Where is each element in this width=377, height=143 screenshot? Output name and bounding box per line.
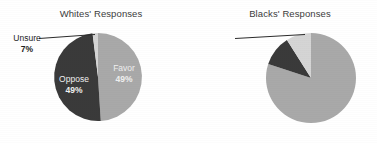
- pie-label-whites-unsure: Unsure 7%: [4, 33, 50, 54]
- pie-label-whites-favor-name: Favor: [104, 63, 144, 74]
- pie-label-whites-unsure-name: Unsure: [4, 33, 50, 44]
- pie-blacks-svg: [187, 0, 377, 143]
- pie-label-whites-favor: Favor 49%: [104, 63, 144, 84]
- pie-chart-figure: Whites' Responses Favor 49% Oppose 49% U…: [0, 0, 377, 143]
- pie-label-whites-favor-pct: 49%: [104, 74, 144, 85]
- chart-whites-responses: Whites' Responses Favor 49% Oppose 49% U…: [0, 0, 190, 143]
- pie-whites-svg: [0, 0, 190, 143]
- pie-label-whites-unsure-pct: 7%: [4, 44, 50, 55]
- chart-blacks-responses: Blacks' Responses Favor 70% Oppose 21% U…: [187, 0, 377, 143]
- pie-label-whites-oppose-pct: 49%: [50, 85, 98, 96]
- pie-label-whites-oppose: Oppose 49%: [50, 74, 98, 95]
- pie-label-whites-oppose-name: Oppose: [50, 74, 98, 85]
